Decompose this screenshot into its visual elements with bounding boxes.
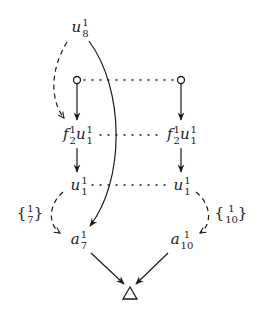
diagram-edges	[0, 0, 265, 316]
node-u8-sub: 8	[82, 28, 88, 39]
node-right-u1-sup: 1	[184, 175, 190, 186]
node-u8-base: u	[71, 18, 81, 36]
edge-u8-to-left-f2u1-dashed	[54, 42, 67, 118]
node-u8-indices: 18	[82, 17, 88, 39]
node-a7-sub: 7	[81, 240, 87, 251]
node-right-u-indices: 11	[191, 124, 197, 146]
node-left-u1-indices: 11	[81, 175, 87, 197]
node-left-u-indices: 11	[87, 124, 93, 146]
right-open-circle-icon	[178, 77, 185, 84]
node-right-u-sup: 1	[191, 124, 197, 135]
node-u8-sup: 1	[82, 17, 88, 28]
node-left-f2u1: f12u11	[63, 124, 93, 146]
node-left-u1-sub: 1	[81, 186, 87, 197]
edge-label-right-close: }	[238, 204, 248, 222]
node-a7: a17	[71, 229, 87, 251]
edge-label-right: {110}	[215, 203, 248, 225]
node-a7-sup: 1	[81, 229, 87, 240]
node-left-u-sub: 1	[87, 135, 93, 146]
edge-label-left-close: }	[34, 204, 44, 222]
edge-a10-to-sink	[136, 253, 168, 284]
edge-label-right-den: 10	[225, 214, 238, 225]
node-right-u1-base: u	[173, 176, 183, 194]
node-left-u1-base: u	[70, 176, 80, 194]
node-a10: a110	[171, 229, 194, 251]
edge-label-right-num: 1	[228, 203, 234, 214]
node-right-u-sub: 1	[191, 135, 197, 146]
node-a10-indices: 110	[181, 229, 194, 251]
sink-triangle-icon	[123, 287, 137, 299]
node-left-u-sup: 1	[87, 124, 93, 135]
node-right-u1: u11	[173, 175, 190, 197]
diagram-canvas: u18 f12u11 f12u11 u11 u11 {17} {110} a17…	[0, 0, 265, 316]
edge-u8-to-a7-curve	[89, 41, 116, 226]
node-a7-base: a	[71, 230, 80, 248]
edge-label-right-frac: 110	[225, 203, 238, 225]
node-left-u-base: u	[76, 125, 86, 143]
node-a10-sub: 10	[181, 240, 194, 251]
left-open-circle-icon	[74, 77, 81, 84]
edge-a7-to-sink	[91, 253, 124, 284]
edge-label-left-open: {	[17, 204, 27, 222]
node-right-u1-sub: 1	[184, 186, 190, 197]
node-right-f2u1: f12u11	[167, 124, 197, 146]
edge-right-u1-to-a10-dashed	[196, 192, 209, 233]
node-left-u1-sup: 1	[81, 175, 87, 186]
node-u8: u18	[71, 17, 88, 39]
node-right-f-base: f	[167, 125, 173, 143]
node-a10-sup: 1	[184, 229, 190, 240]
edge-label-right-open: {	[215, 204, 225, 222]
node-a7-indices: 17	[81, 229, 87, 251]
node-left-u1: u11	[70, 175, 87, 197]
node-right-u-base: u	[180, 125, 190, 143]
edge-left-u1-to-a7-dashed	[51, 192, 63, 233]
node-a10-base: a	[171, 230, 180, 248]
node-right-u1-indices: 11	[184, 175, 190, 197]
edge-label-left: {17}	[17, 203, 43, 225]
node-left-f-base: f	[63, 125, 69, 143]
